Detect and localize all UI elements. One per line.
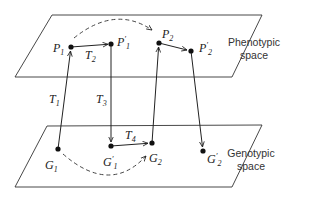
label-G1prime: G′1 — [103, 155, 117, 171]
genotypic-space-label-line2: space — [237, 160, 265, 172]
phenotypic-space-label-line1: Phenotypic — [228, 36, 280, 48]
label-P2prime: P′2 — [198, 41, 212, 57]
point-G2prime — [200, 148, 205, 153]
label-P1prime: P′1 — [116, 35, 130, 51]
point-G1prime — [108, 143, 113, 148]
edge-P2prime-to-G2prime — [191, 51, 203, 147]
edge-T4-G1prime-to-G2 — [111, 143, 148, 146]
phenotype-dashed-arc — [74, 19, 152, 38]
label-T4: T4 — [125, 128, 136, 144]
point-P2prime — [188, 48, 193, 53]
label-T1: T1 — [49, 92, 60, 108]
label-G2prime: G′2 — [207, 152, 221, 168]
genotypic-space-label-line1: Genotypic — [227, 147, 274, 159]
label-G2: G2 — [149, 151, 162, 167]
genotype-phenotype-diagram: P1 P′1 P2 P′2 G1 G′1 G2 G′2 T2 T1 T3 T4 … — [0, 0, 319, 197]
label-P2: P2 — [161, 27, 173, 43]
phenotypic-space-label-line2: space — [240, 49, 268, 61]
edge-P2-to-P2prime — [159, 43, 187, 50]
label-T3: T3 — [96, 92, 107, 108]
point-G2 — [149, 140, 154, 145]
point-G1 — [55, 146, 60, 151]
edge-G2-to-P2 — [152, 47, 159, 143]
edge-T2-P1-to-P1prime — [71, 44, 108, 47]
label-G1: G1 — [45, 158, 58, 174]
genotypic-space-plane — [15, 125, 262, 187]
point-P1prime — [108, 41, 113, 46]
label-T2: T2 — [85, 48, 96, 64]
point-P2 — [156, 40, 161, 45]
label-P1: P1 — [52, 41, 64, 57]
edge-T1-G1-to-P1 — [58, 51, 71, 149]
point-P1 — [68, 44, 73, 49]
